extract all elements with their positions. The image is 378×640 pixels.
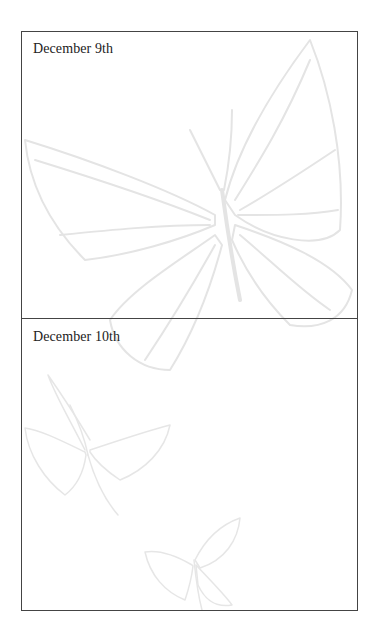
entry-section-december-10[interactable]: December 10th — [22, 320, 357, 610]
entry-date-label: December 9th — [33, 41, 113, 57]
entry-date-label: December 10th — [33, 329, 120, 345]
journal-page-frame: December 9th December 10th — [21, 31, 358, 611]
entry-section-december-9[interactable]: December 9th — [22, 32, 357, 319]
